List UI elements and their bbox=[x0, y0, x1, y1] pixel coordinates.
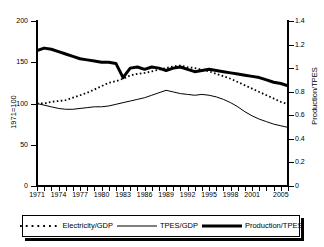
legend-label-0: Electricity/GDP bbox=[63, 222, 113, 230]
series-line-production-tpes bbox=[37, 48, 288, 86]
chart-figure: 050100150200 00.20.40.60.811.21.4 197119… bbox=[0, 0, 324, 247]
y-tick-right bbox=[289, 45, 294, 46]
y-tick-right bbox=[289, 186, 294, 187]
y-tick-label-right-7: 1.4 bbox=[295, 17, 321, 24]
legend-item-1: TPES/GDP bbox=[117, 222, 198, 230]
legend-item-2: Production/TPES bbox=[202, 222, 303, 230]
series-line-tpes-gdp bbox=[37, 90, 288, 127]
y-tick-right bbox=[289, 115, 294, 116]
series-line-electricity-gdp bbox=[37, 66, 288, 105]
y-tick-label-left-3: 150 bbox=[2, 58, 28, 65]
y-tick-label-left-0: 0 bbox=[2, 182, 28, 189]
y-tick-left bbox=[31, 145, 36, 146]
y-tick-right bbox=[289, 92, 294, 93]
legend-swatch-2 bbox=[202, 222, 242, 230]
legend-label-1: TPES/GDP bbox=[160, 222, 198, 230]
x-tick-label-11: 2005 bbox=[268, 191, 294, 198]
y-tick-right bbox=[289, 21, 294, 22]
legend-label-2: Production/TPES bbox=[245, 222, 303, 230]
y-axis-right-title: Production/TPES bbox=[311, 56, 319, 136]
y-tick-label-right-0: 0 bbox=[295, 182, 321, 189]
y-tick-left bbox=[31, 186, 36, 187]
y-axis-left-title: 1971=100 bbox=[10, 82, 18, 142]
y-tick-label-right-1: 0.2 bbox=[295, 158, 321, 165]
y-tick-label-right-6: 1.2 bbox=[295, 41, 321, 48]
chart-plot-region: 050100150200 00.20.40.60.811.21.4 197119… bbox=[0, 0, 324, 205]
series-lines bbox=[37, 21, 288, 186]
legend-swatch-1 bbox=[117, 222, 157, 230]
legend-shadow-bottom bbox=[25, 238, 304, 241]
y-tick-right bbox=[289, 162, 294, 163]
y-tick-label-left-4: 200 bbox=[2, 17, 28, 24]
y-tick-right bbox=[289, 68, 294, 69]
legend-item-0: Electricity/GDP bbox=[20, 222, 113, 230]
y-tick-left bbox=[31, 21, 36, 22]
legend-swatch-0 bbox=[20, 222, 60, 230]
chart-legend: Electricity/GDPTPES/GDPProduction/TPES bbox=[22, 215, 300, 237]
y-tick-left bbox=[31, 104, 36, 105]
y-tick-right bbox=[289, 139, 294, 140]
x-tick-label-10: 2001 bbox=[239, 191, 265, 198]
y-tick-left bbox=[31, 62, 36, 63]
